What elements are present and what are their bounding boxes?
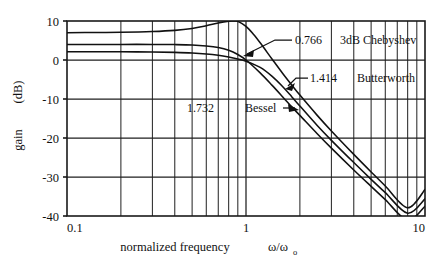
y-tick-label: 10 <box>47 15 60 29</box>
x-tick-label: 10 <box>413 221 426 235</box>
x-tick-label: 0.1 <box>67 221 83 235</box>
series-label-bessel: Bessel <box>245 101 277 115</box>
x-axis-title-text: normalized frequency <box>120 240 230 254</box>
bode-magnitude-chart: 100-10-20-30-40 0.1110 gain (dB) normali… <box>0 0 443 270</box>
series-label-chebyshev: 3dB Chebyshev <box>340 33 416 47</box>
y-tick-label: 0 <box>53 54 59 68</box>
series-label-butterworth: Butterworth <box>357 71 415 85</box>
y-tick-label: -10 <box>42 93 59 107</box>
chart-page: 100-10-20-30-40 0.1110 gain (dB) normali… <box>0 0 443 270</box>
y-axis-title-text: gain <box>11 128 25 150</box>
q-label-bessel: 1.732 <box>187 101 214 115</box>
x-axis-symbol-text: ω/ω <box>268 240 288 254</box>
y-tick-label: -40 <box>42 210 59 224</box>
y-axis-unit-text: (dB) <box>11 81 25 104</box>
y-tick-label: -20 <box>42 132 59 146</box>
y-tick-label: -30 <box>42 171 59 185</box>
x-axis-symbol-subscript: o <box>293 247 297 257</box>
q-label-chebyshev: 0.766 <box>295 33 322 47</box>
q-label-butterworth: 1.414 <box>310 71 337 85</box>
x-tick-label: 1 <box>243 221 249 235</box>
